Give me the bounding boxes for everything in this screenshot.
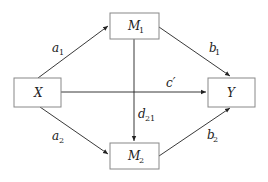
node-x: X: [14, 78, 61, 107]
svg-text:1: 1: [139, 26, 144, 35]
label-b2: b 2: [207, 128, 218, 144]
label-a1: a 1: [52, 41, 64, 57]
label-d21: d 21: [138, 107, 155, 123]
svg-text:2: 2: [59, 136, 64, 145]
node-m1: M 1: [110, 13, 159, 39]
node-y: Y: [208, 78, 255, 107]
node-m2: M 2: [110, 143, 159, 169]
svg-text:2: 2: [139, 156, 144, 165]
edge-x-m2: [40, 107, 108, 154]
mediation-diagram: X M 1 Y M 2 a 1 a 2 b 1 b 2 c′ d 21: [0, 0, 268, 182]
label-c-prime: c′: [166, 76, 176, 90]
label-b1: b 1: [209, 41, 220, 57]
svg-text:1: 1: [215, 48, 220, 57]
edge-x-m1: [38, 26, 108, 78]
svg-text:21: 21: [145, 114, 155, 123]
svg-text:Y: Y: [227, 86, 236, 100]
svg-text:2: 2: [213, 135, 218, 144]
svg-text:c′: c′: [166, 76, 176, 90]
svg-text:X: X: [33, 86, 43, 100]
svg-text:1: 1: [59, 48, 64, 57]
edge-m2-y: [159, 108, 230, 156]
label-a2: a 2: [52, 129, 64, 145]
